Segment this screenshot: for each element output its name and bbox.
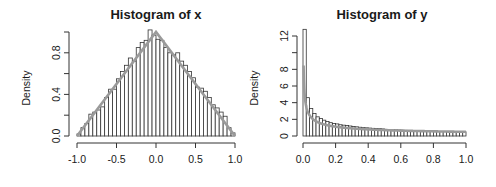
x-axis: -1.0-0.50.00.51.0 [68, 143, 242, 165]
histogram-bar [160, 40, 164, 136]
y-tick-label: 6 [278, 83, 290, 89]
y-tick-label: 0 [278, 133, 290, 139]
histogram-bar [310, 109, 313, 137]
histogram-bar [313, 114, 316, 137]
histogram-bar [316, 117, 319, 136]
histogram-bar [319, 119, 322, 137]
x-tick-label: -0.5 [107, 153, 125, 165]
figure: Histogram of x Density 0.00.40.8 -1.0-0.… [0, 0, 496, 187]
histogram-bar [180, 61, 184, 136]
histogram-bar [326, 121, 329, 136]
histogram-bar [148, 30, 152, 136]
histogram-bar [176, 53, 180, 136]
x-tick-label: 0.8 [426, 153, 441, 165]
histogram-bars [303, 29, 466, 136]
y-axis-label: Density [248, 70, 260, 106]
histogram-bar [172, 55, 176, 136]
x-tick-label: 1.0 [228, 153, 243, 165]
x-tick-label: -1.0 [68, 153, 86, 165]
histogram-bar [117, 79, 121, 136]
histogram-bar [168, 53, 172, 136]
y-tick-label: 12 [278, 30, 290, 42]
y-axis-label: Density [20, 70, 32, 106]
x-tick-label: 0.0 [296, 153, 311, 165]
histogram-bar [97, 110, 101, 136]
y-tick-label: 2 [278, 116, 290, 122]
y-tick-label: 0.8 [50, 45, 62, 60]
y-tick-label: 4 [278, 100, 290, 106]
x-axis: 0.00.20.40.60.81.0 [296, 143, 474, 165]
histogram-bar [144, 40, 148, 136]
histogram-bar [105, 98, 109, 136]
histogram-bar [156, 39, 160, 136]
histogram-bar [184, 65, 188, 136]
histogram-bar [132, 61, 136, 136]
x-tick-label: 0.2 [328, 153, 343, 165]
histogram-bar [196, 87, 200, 136]
x-tick-label: 1.0 [459, 153, 474, 165]
histogram-bar [136, 48, 140, 136]
histogram-bars [77, 30, 235, 136]
y-axis: 0.00.40.8 [50, 32, 69, 143]
histogram-y-panel: Histogram of y Density 0246812 0.00.20.4… [248, 7, 473, 165]
histogram-bar [101, 107, 105, 136]
x-tick-label: 0.6 [393, 153, 408, 165]
y-tick-label: 8 [278, 66, 290, 72]
histogram-figure: Histogram of x Density 0.00.40.8 -1.0-0.… [0, 0, 496, 187]
chart-title: Histogram of x [110, 7, 202, 22]
histogram-bar [113, 89, 117, 136]
histogram-bar [152, 35, 156, 136]
histogram-bar [323, 120, 326, 136]
histogram-x-panel: Histogram of x Density 0.00.40.8 -1.0-0.… [20, 7, 242, 165]
histogram-bar [192, 78, 196, 136]
histogram-bar [140, 42, 144, 136]
y-axis: 0246812 [278, 30, 297, 139]
y-tick-label: 0.4 [50, 87, 62, 102]
y-tick-label: 0.0 [50, 129, 62, 144]
chart-title: Histogram of y [336, 7, 428, 22]
histogram-bar [124, 65, 128, 136]
histogram-bar [188, 72, 192, 136]
x-tick-label: 0.0 [149, 153, 164, 165]
histogram-bar [109, 89, 113, 136]
x-tick-label: 0.4 [361, 153, 376, 165]
histogram-bar [120, 72, 124, 136]
histogram-bar [164, 48, 168, 136]
x-tick-label: 0.5 [188, 153, 203, 165]
